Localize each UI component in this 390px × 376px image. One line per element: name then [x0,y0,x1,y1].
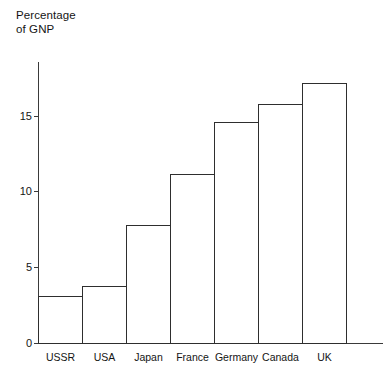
bar-ussr [38,296,83,344]
y-tick-label: 10 [20,186,32,197]
plot-area: 051015 USSRUSAJapanFranceGermanyCanadaUK [0,0,390,376]
x-tick-label-usa: USA [82,351,127,363]
bar-usa [82,286,127,344]
y-tick-label: 0 [26,338,32,349]
y-tick-label: 15 [20,111,32,122]
bar-canada [258,104,303,344]
bar-france [170,174,215,344]
y-tick-mark [34,116,39,117]
bar-germany [214,122,259,344]
bar-chart: Percentage of GNP 051015 USSRUSAJapanFra… [0,0,390,376]
x-tick-label-germany: Germany [214,351,259,363]
x-tick-label-canada: Canada [258,351,303,363]
x-tick-label-uk: UK [302,351,347,363]
y-tick-mark [34,267,39,268]
y-tick-mark [34,191,39,192]
x-tick-label-ussr: USSR [38,351,83,363]
y-tick-label: 5 [26,262,32,273]
x-tick-label-france: France [170,351,215,363]
x-tick-label-japan: Japan [126,351,171,363]
bar-japan [126,225,171,344]
bar-uk [302,83,347,344]
